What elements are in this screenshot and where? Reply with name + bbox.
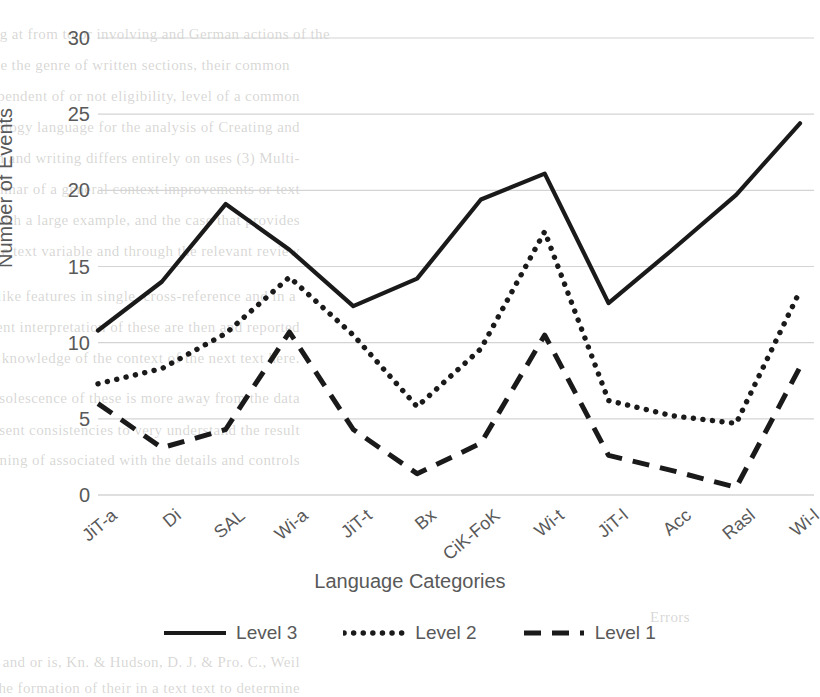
x-tick-label: JiT-a [53, 505, 122, 567]
x-tick-label: Wi-t [500, 505, 569, 567]
gridlines [98, 38, 814, 495]
legend-label: Level 2 [415, 622, 476, 644]
x-tick-label: SAL [180, 505, 249, 567]
x-tick-label: Wi-a [244, 505, 313, 567]
legend-item-level-2[interactable]: Level 2 [343, 622, 476, 644]
legend-item-level-3[interactable]: Level 3 [164, 622, 297, 644]
x-tick-label: Bx [372, 505, 441, 567]
series-line-level-1 [98, 332, 800, 487]
legend-swatch-solid [164, 626, 226, 640]
plot-area [0, 0, 820, 500]
x-axis-title: Language Categories [0, 570, 820, 593]
series-line-level-2 [98, 231, 800, 423]
x-tick-label: Wi-l [755, 505, 820, 567]
legend-swatch-dashed [523, 626, 585, 640]
x-tick-label: CiK-FoK [436, 505, 505, 567]
x-tick-label: Rasl [691, 505, 760, 567]
legend-item-level-1[interactable]: Level 1 [523, 622, 656, 644]
legend-swatch-dotted [343, 626, 405, 640]
x-tick-label: JiT-l [563, 505, 632, 567]
series-line-level-3 [98, 123, 800, 330]
series-lines [98, 123, 800, 487]
legend-label: Level 3 [236, 622, 297, 644]
x-tick-label: Di [117, 505, 186, 567]
chart-legend: Level 3Level 2Level 1 [0, 622, 820, 644]
legend-label: Level 1 [595, 622, 656, 644]
x-tick-label: Acc [627, 505, 696, 567]
x-tick-label: JiT-t [308, 505, 377, 567]
